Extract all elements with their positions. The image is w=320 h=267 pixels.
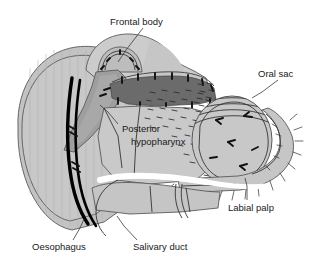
label-posterior-hypopharynx-line2: hypopharynx xyxy=(131,136,186,147)
anatomical-diagram: Frontal body Oral sac Posterior hypophar… xyxy=(0,0,320,267)
leader-salivary-duct xyxy=(117,216,137,240)
leader-oral-sac xyxy=(252,80,278,98)
label-labial-palp: Labial palp xyxy=(228,202,274,213)
label-posterior-hypopharynx-line1: Posterior xyxy=(122,123,160,134)
label-oral-sac: Oral sac xyxy=(258,68,294,79)
diagram-canvas: Frontal body Oral sac Posterior hypophar… xyxy=(0,0,320,267)
label-oesophagus: Oesophagus xyxy=(32,241,86,252)
label-frontal-body: Frontal body xyxy=(110,16,163,27)
label-salivary-duct: Salivary duct xyxy=(133,241,188,252)
